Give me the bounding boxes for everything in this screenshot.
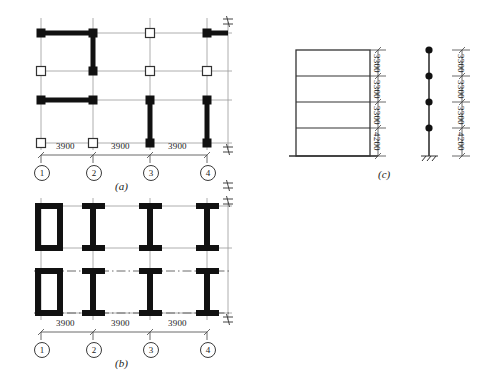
figure-a-group	[37, 16, 234, 191]
figure-a-caption: (a)	[115, 180, 128, 192]
box-section	[35, 268, 63, 316]
filled-square-node	[89, 96, 98, 105]
figure-a-hollow-nodes	[37, 29, 212, 148]
figure-c-stick-height-4: 3300	[456, 54, 466, 73]
figure-b-span-2: 3900	[111, 318, 130, 328]
filled-square-node	[89, 29, 98, 38]
i-section	[196, 268, 219, 316]
figure-a-dimension-line	[38, 152, 210, 163]
figure-b-grid-label-4[interactable]: 4	[200, 342, 216, 358]
drawing-sheet: 3900 3900 3900 1 2 3 4 (a) 3900 3900 390…	[0, 0, 482, 378]
figure-b-span-1: 3900	[56, 318, 75, 328]
break-symbol	[223, 180, 233, 191]
figure-a-grid-label-1[interactable]: 1	[34, 165, 50, 181]
figure-c-stick-height-3: 3300	[456, 80, 466, 99]
figure-b-grid-label-2[interactable]: 2	[86, 342, 102, 358]
figure-c-storey-height-1: 4200	[372, 132, 382, 151]
figure-a-grid-label-3[interactable]: 3	[143, 165, 159, 181]
filled-square-node	[89, 67, 98, 76]
figure-a-grid-label-4[interactable]: 4	[200, 165, 216, 181]
i-section	[82, 203, 105, 251]
i-section	[82, 268, 105, 316]
node-dot	[425, 72, 432, 79]
figure-b-lower-sections	[35, 268, 219, 316]
figure-c-caption: (c)	[378, 168, 390, 180]
figure-a-span-1: 3900	[56, 141, 75, 151]
figure-b-upper-sections	[35, 203, 219, 251]
node-dot	[425, 124, 432, 131]
figure-b-center-lines	[34, 271, 232, 313]
hollow-square-node	[146, 67, 155, 76]
box-section	[35, 203, 63, 251]
figure-c-stick-height-1: 4200	[456, 132, 466, 151]
figure-b-caption: (b)	[115, 357, 128, 369]
figure-b-grid-lines	[41, 198, 232, 320]
filled-square-node	[37, 29, 46, 38]
fixed-base-support	[421, 156, 438, 161]
filled-square-node	[146, 96, 155, 105]
figure-a-span-2: 3900	[111, 141, 130, 151]
figure-c-storey-height-4: 3300	[372, 54, 382, 73]
figure-b-grid-label-3[interactable]: 3	[143, 342, 159, 358]
figure-a-grid-lines	[41, 18, 232, 150]
figure-b-span-3: 3900	[168, 318, 187, 328]
node-dot	[425, 98, 432, 105]
hollow-square-node	[37, 67, 46, 76]
figure-c-storey-height-3: 3300	[372, 80, 382, 99]
i-section	[139, 203, 162, 251]
hollow-square-node	[146, 29, 155, 38]
figure-a-filled-nodes	[37, 29, 212, 148]
hollow-square-node	[37, 139, 46, 148]
figure-b-grid-label-1[interactable]: 1	[34, 342, 50, 358]
figure-c-elevation	[289, 50, 378, 156]
hollow-square-node	[203, 67, 212, 76]
hollow-square-node	[89, 139, 98, 148]
filled-square-node	[37, 96, 46, 105]
figure-a-span-3: 3900	[168, 141, 187, 151]
filled-square-node	[203, 29, 212, 38]
figure-c-stick-height-2: 3300	[456, 106, 466, 125]
i-section	[196, 203, 219, 251]
i-section	[139, 268, 162, 316]
filled-square-node	[203, 96, 212, 105]
figure-c-storey-height-2: 3300	[372, 106, 382, 125]
figure-b-dimension-line	[38, 329, 210, 340]
filled-square-node	[146, 139, 155, 148]
node-dot	[425, 46, 432, 53]
figure-a-wall-segments	[44, 33, 228, 140]
figure-a-grid-label-2[interactable]: 2	[86, 165, 102, 181]
filled-square-node	[203, 139, 212, 148]
